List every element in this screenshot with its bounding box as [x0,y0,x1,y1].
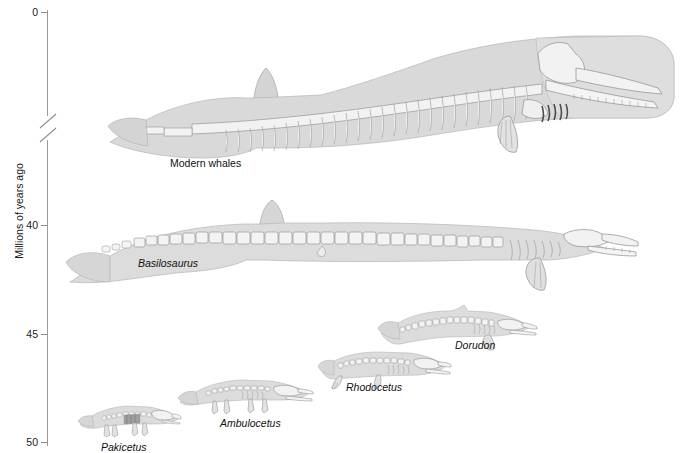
label-basilosaurus: Basilosaurus [138,258,198,269]
axis-break-icon [36,112,60,144]
figure-modern-whales [106,24,688,164]
y-axis-title: Millions of years ago [13,146,25,276]
label-modern-whales: Modern whales [170,158,241,169]
figure-ambulocetus [178,370,314,414]
axis-tick-label-0: 0 [4,7,38,18]
axis-tick-label-45: 45 [4,329,38,340]
axis-tick-45 [41,334,48,335]
axis-tick-label-50: 50 [4,437,38,448]
axis-tick-0 [41,12,48,13]
figure-pakicetus [78,398,182,438]
whale-evolution-diagram: 0 40 45 50 Millions of years ago [0,0,688,453]
label-rhodocetus: Rhodocetus [346,382,402,393]
label-dorudon: Dorudon [455,340,495,351]
axis-tick-50 [41,442,48,443]
y-axis-line [47,10,48,446]
axis-tick-40 [41,225,48,226]
label-pakicetus: Pakicetus [101,442,147,453]
figure-basilosaurus [64,190,642,298]
label-ambulocetus: Ambulocetus [220,418,281,429]
